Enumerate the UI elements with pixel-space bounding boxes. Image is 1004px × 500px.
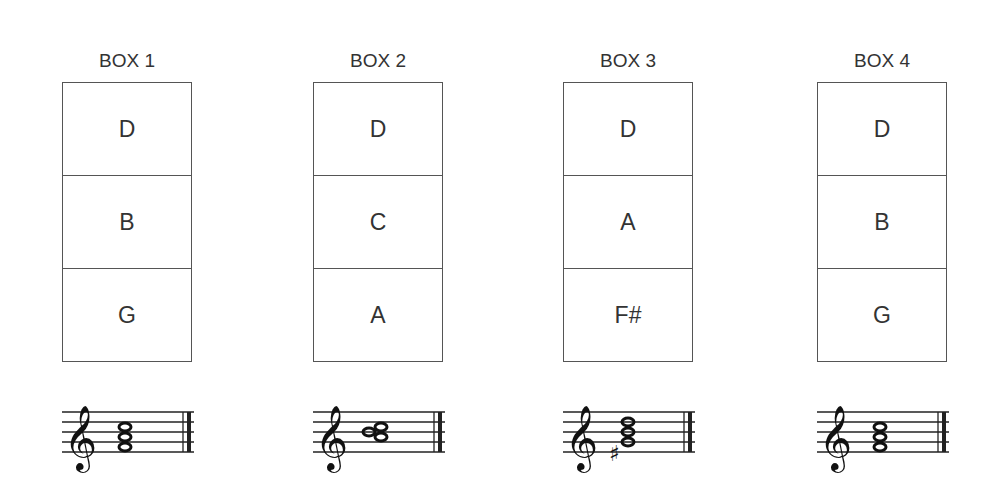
treble-clef-icon: 𝄞 xyxy=(819,405,852,473)
box-title: BOX 1 xyxy=(62,50,192,72)
note-stack: D B G xyxy=(817,82,947,362)
note-cell: D xyxy=(818,83,946,176)
treble-clef-icon: 𝄞 xyxy=(565,405,598,473)
box-title: BOX 3 xyxy=(563,50,693,72)
treble-clef-icon: 𝄞 xyxy=(64,405,97,473)
note-cell: D xyxy=(564,83,692,176)
note-stack: D A F# xyxy=(563,82,693,362)
staff-notation: 𝄞 xyxy=(52,395,202,480)
note-cell: D xyxy=(314,83,442,176)
note-stack: D C A xyxy=(313,82,443,362)
note-cell: C xyxy=(314,176,442,269)
treble-clef-icon: 𝄞 xyxy=(315,405,348,473)
staff-notation: 𝄞 xyxy=(303,395,453,480)
note-cell: F# xyxy=(564,269,692,361)
note-cell: G xyxy=(63,269,191,361)
note-cell: A xyxy=(564,176,692,269)
staff-notation: 𝄞 ♯ xyxy=(553,395,703,480)
sharp-icon: ♯ xyxy=(609,441,620,466)
note-cell: D xyxy=(63,83,191,176)
box-title: BOX 2 xyxy=(313,50,443,72)
note-stack: D B G xyxy=(62,82,192,362)
note-cell: B xyxy=(63,176,191,269)
note-cell: G xyxy=(818,269,946,361)
staff-notation: 𝄞 xyxy=(807,395,957,480)
note-cell: B xyxy=(818,176,946,269)
note-cell: A xyxy=(314,269,442,361)
box-title: BOX 4 xyxy=(817,50,947,72)
